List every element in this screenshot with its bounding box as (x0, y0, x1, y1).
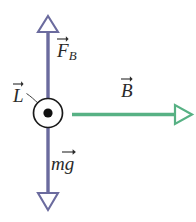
label-force-magnetic: F B (57, 41, 77, 63)
vector-overarrow-group: L (13, 86, 24, 105)
weight-down-arrowhead-icon (38, 193, 58, 210)
vector-overarrow-group: F (57, 41, 69, 60)
physics-force-diagram: F B L B (0, 0, 196, 222)
field-arrowhead-icon (175, 105, 192, 124)
force-label-text: F (57, 40, 69, 61)
label-length-current: L (13, 86, 24, 105)
force-up-arrowhead-icon (38, 16, 58, 32)
weight-label-text: mg (51, 153, 74, 174)
current-out-of-page-icon (34, 99, 63, 128)
vector-overarrow-group: mg (51, 154, 76, 173)
magnetic-field-vector (72, 105, 192, 124)
current-direction-dot (43, 108, 52, 117)
field-label-text: B (121, 80, 133, 101)
length-label-text: L (13, 85, 24, 106)
force-label-subscript: B (69, 48, 77, 63)
label-weight: mg (51, 154, 76, 173)
label-magnetic-field: B (121, 81, 133, 100)
vector-overarrow-group: B (121, 81, 133, 100)
diagram-canvas (0, 0, 196, 222)
